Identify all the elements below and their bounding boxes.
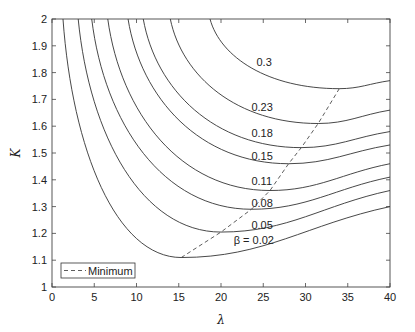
y-tick-label: 1 <box>41 281 47 293</box>
x-tick-label: 0 <box>49 291 55 303</box>
curve-label: 0.3 <box>256 56 271 68</box>
y-tick-label: 2 <box>41 13 47 25</box>
curve-label: 0.08 <box>251 197 272 209</box>
x-tick-label: 25 <box>257 291 269 303</box>
x-tick-label: 30 <box>299 291 311 303</box>
chart: 051015202530354011.11.21.31.41.51.61.71.… <box>0 0 415 332</box>
minimum-line <box>181 89 339 258</box>
beta-curve <box>128 19 390 164</box>
y-tick-label: 1.5 <box>32 147 47 159</box>
y-tick-label: 1.1 <box>32 254 47 266</box>
beta-curve <box>92 19 390 209</box>
curve-label: 0.18 <box>251 127 272 139</box>
beta-curve <box>210 19 390 89</box>
x-axis-label: λ <box>216 313 225 327</box>
x-tick-label: 10 <box>130 291 142 303</box>
legend: Minimum <box>61 263 135 278</box>
x-tick-label: 15 <box>173 291 185 303</box>
x-tick-label: 40 <box>384 291 396 303</box>
plot-border <box>52 19 390 287</box>
beta-curve <box>63 19 390 258</box>
legend-label: Minimum <box>88 265 133 277</box>
y-axis-label: K <box>9 147 23 158</box>
curve-label: β = 0.02 <box>234 234 274 246</box>
y-tick-label: 1.2 <box>32 227 47 239</box>
minimum-dashed-line <box>181 89 339 258</box>
x-tick-label: 20 <box>215 291 227 303</box>
y-tick-label: 1.8 <box>32 67 47 79</box>
curve-label: 0.05 <box>251 219 272 231</box>
axis-ticks: 051015202530354011.11.21.31.41.51.61.71.… <box>32 13 396 303</box>
x-tick-label: 35 <box>342 291 354 303</box>
beta-curve <box>170 19 390 124</box>
curve-label: 0.11 <box>251 175 272 187</box>
beta-curves <box>63 19 390 258</box>
y-tick-label: 1.9 <box>32 40 47 52</box>
curve-label: 0.15 <box>251 150 272 162</box>
plot-area <box>52 19 390 287</box>
curve-label: 0.23 <box>251 101 272 113</box>
y-tick-label: 1.7 <box>32 93 47 105</box>
y-tick-label: 1.6 <box>32 120 47 132</box>
y-tick-label: 1.4 <box>32 174 47 186</box>
y-tick-label: 1.3 <box>32 201 47 213</box>
x-tick-label: 5 <box>91 291 97 303</box>
